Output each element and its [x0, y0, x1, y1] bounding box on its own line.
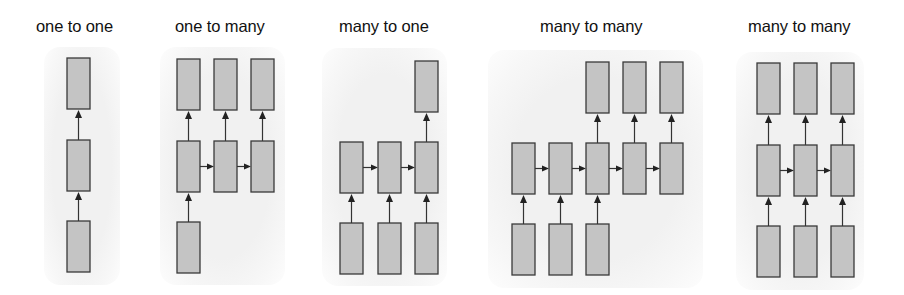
input-box	[177, 222, 200, 273]
input-box	[512, 224, 535, 275]
arrow-right-icon	[237, 164, 251, 170]
arrow-right-icon	[572, 166, 586, 172]
arrow-right-icon	[817, 168, 831, 174]
output-box	[177, 59, 200, 110]
hidden-state-box	[415, 142, 438, 193]
hidden-state-box	[831, 145, 854, 196]
arrow-right-icon	[200, 164, 214, 170]
output-box	[623, 62, 646, 113]
arrow-up-icon	[765, 115, 772, 145]
input-box	[340, 223, 363, 274]
output-box	[586, 62, 609, 113]
arrow-up-icon	[185, 193, 192, 222]
hidden-state-box	[67, 140, 90, 191]
hidden-state-box	[340, 142, 363, 193]
arrow-up-icon	[839, 115, 846, 145]
output-box	[794, 63, 817, 114]
diagram-canvas	[0, 0, 904, 295]
input-box	[757, 226, 780, 277]
arrow-up-icon	[520, 195, 527, 224]
input-box	[831, 226, 854, 277]
hidden-state-box	[794, 145, 817, 196]
arrow-right-icon	[401, 165, 415, 171]
output-box	[214, 59, 237, 110]
input-box	[586, 224, 609, 275]
arrow-up-icon	[423, 113, 430, 142]
output-box	[660, 62, 683, 113]
output-box	[415, 61, 438, 112]
hidden-state-box	[378, 142, 401, 193]
arrow-up-icon	[259, 111, 266, 141]
output-box	[757, 63, 780, 114]
hidden-state-box	[660, 143, 683, 194]
hidden-state-box	[757, 145, 780, 196]
arrow-up-icon	[839, 197, 846, 226]
arrow-up-icon	[802, 115, 809, 145]
arrow-up-icon	[75, 110, 82, 140]
input-box	[378, 223, 401, 274]
input-box	[415, 223, 438, 274]
arrow-up-icon	[423, 194, 430, 223]
arrow-up-icon	[348, 194, 355, 223]
input-box	[67, 221, 90, 272]
output-box	[831, 63, 854, 114]
input-box	[549, 224, 572, 275]
arrow-up-icon	[594, 195, 601, 224]
arrow-up-icon	[386, 194, 393, 223]
arrow-up-icon	[765, 197, 772, 226]
hidden-state-box	[549, 143, 572, 194]
output-box	[67, 58, 90, 109]
hidden-state-box	[214, 141, 237, 192]
input-box	[794, 226, 817, 277]
arrow-right-icon	[609, 166, 623, 172]
arrow-right-icon	[363, 165, 378, 171]
arrow-up-icon	[75, 192, 82, 221]
hidden-state-box	[623, 143, 646, 194]
arrow-up-icon	[222, 111, 229, 141]
hidden-state-box	[251, 141, 274, 192]
hidden-state-box	[512, 143, 535, 194]
arrow-up-icon	[631, 114, 638, 143]
arrow-up-icon	[802, 197, 809, 226]
arrow-up-icon	[668, 114, 675, 143]
arrow-right-icon	[535, 166, 549, 172]
output-box	[251, 59, 274, 110]
hidden-state-box	[177, 141, 200, 192]
hidden-state-box	[586, 143, 609, 194]
arrow-right-icon	[646, 166, 660, 172]
arrow-up-icon	[594, 114, 601, 143]
arrow-right-icon	[780, 168, 794, 174]
arrow-up-icon	[185, 111, 192, 141]
arrow-up-icon	[557, 195, 564, 224]
